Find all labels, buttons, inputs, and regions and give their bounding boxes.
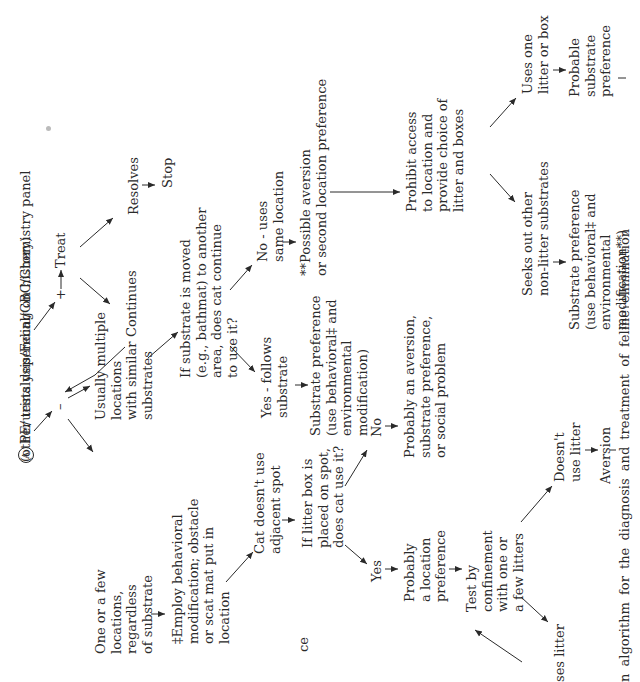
employ-behavioral-node: ‡Employ behavioral modification; obstacl… <box>170 499 232 644</box>
partial-text-ce: ce <box>296 637 312 652</box>
figure-caption-partial: n algorithm for the diagnosis and treatm… <box>617 229 633 682</box>
smudge-mark <box>46 126 51 131</box>
probably-location-node: Probably a location preference <box>402 530 449 602</box>
aversion-node: Aversion <box>598 427 614 484</box>
no-node: No <box>369 418 385 437</box>
minus-sign: – <box>52 404 68 411</box>
yes-follows-node: Yes - follows substrate <box>259 337 290 418</box>
no-uses-same-node: No - uses same location <box>255 171 286 262</box>
uses-one-litter-node: Uses one litter or box <box>520 16 551 94</box>
treat-node: Treat <box>53 232 69 268</box>
uses-litter-partial-node: ses litter <box>552 624 568 682</box>
yes-node: Yes <box>369 560 385 582</box>
seeks-other-node: Seeks out other non-litter substrates <box>520 161 551 296</box>
cat-doesnt-use-node: Cat doesn't use adjacent spot <box>252 452 283 554</box>
few-locations-node: One or a few locations, regardless of su… <box>93 569 155 654</box>
substrate-moved-question-node: If substrate is moved (e.g., bathmat) to… <box>178 208 240 378</box>
litter-box-question-node: If litter box is placed on spot, does ca… <box>300 446 347 548</box>
possible-aversion-node: **Possible aversion or second location p… <box>298 79 329 276</box>
test-confinement-node: Test by confinement with one or a few li… <box>464 530 526 612</box>
start-subtext: (other tests depending on history) <box>18 237 34 462</box>
substrate-preference-1-node: Substrate preference (use behavioral‡ an… <box>308 296 370 437</box>
multiple-locations-node: Usually multiple locations with similar … <box>93 312 155 420</box>
stop-node: Stop <box>160 158 176 188</box>
rotated-flowchart-page: APE/urinalysis/Fecal/CBC/Chemistry panel… <box>0 0 640 682</box>
doesnt-use-litter-node: Doesn't use litter <box>552 422 583 482</box>
probably-aversion-node: Probably an aversion, substrate preferen… <box>402 315 449 458</box>
prohibit-access-node: Prohibit access to location and provide … <box>404 99 466 212</box>
resolves-node: Resolves <box>126 157 142 215</box>
probable-substrate-node: Probable substrate preference <box>567 25 614 97</box>
plus-sign: + <box>53 289 69 300</box>
